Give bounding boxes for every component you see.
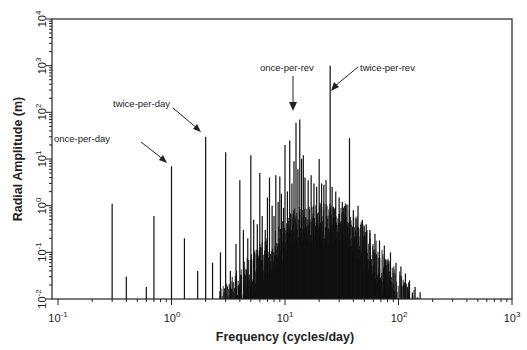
spectrum-chart: 10-1 100 101 102 103 10-2 10-1 100 101 1… xyxy=(0,0,527,350)
svg-text:twice-per-day: twice-per-day xyxy=(113,98,170,109)
x-tick-label-1: 100 xyxy=(164,310,181,324)
y-tick-label-6: 104 xyxy=(34,10,48,27)
arrow-head-icon xyxy=(289,102,297,111)
annotation-twice-per-day: twice-per-day xyxy=(113,98,201,132)
x-tick-label-3: 102 xyxy=(391,310,408,324)
svg-text:once-per-day: once-per-day xyxy=(54,133,110,144)
y-axis-title: Radial Amplitude (m) xyxy=(11,97,25,222)
x-axis-title: Frequency (cycles/day) xyxy=(216,330,354,344)
y-tick-label-1: 10-1 xyxy=(34,242,48,262)
annotation-twice-per-rev: twice-per-rev xyxy=(331,62,415,91)
y-tick-label-5: 103 xyxy=(34,57,48,74)
annotation-once-per-rev: once-per-rev xyxy=(260,62,314,111)
y-tick-label-4: 102 xyxy=(34,103,48,120)
svg-text:once-per-rev: once-per-rev xyxy=(260,62,314,73)
y-tick-label-0: 10-2 xyxy=(34,289,48,309)
arrow-head-icon xyxy=(159,155,167,163)
y-axis-tick-labels: 10-2 10-1 100 101 102 103 104 xyxy=(34,10,48,309)
y-tick-label-3: 101 xyxy=(34,150,48,167)
x-tick-label-2: 101 xyxy=(277,310,294,324)
x-tick-label-0: 10-1 xyxy=(48,310,68,324)
annotation-once-per-day: once-per-day xyxy=(54,133,167,163)
x-axis-tick-labels: 10-1 100 101 102 103 xyxy=(48,310,521,324)
x-axis-ticks xyxy=(58,299,512,305)
y-tick-label-2: 100 xyxy=(34,197,48,214)
x-tick-label-4: 103 xyxy=(504,310,521,324)
svg-text:twice-per-rev: twice-per-rev xyxy=(360,62,415,73)
